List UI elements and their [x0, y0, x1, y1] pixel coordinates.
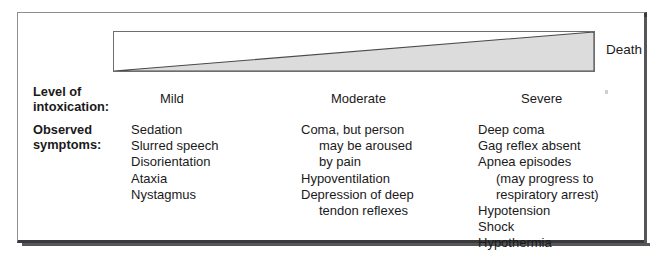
symptom-line: by pain	[301, 154, 414, 170]
symptom-line: Apnea episodes	[478, 154, 599, 170]
frame-shadow-right	[644, 17, 647, 246]
symptom-line: Deep coma	[478, 122, 599, 138]
severity-wedge-box	[113, 31, 595, 72]
symptom-line: Shock	[478, 219, 599, 235]
level-heading-mild: Mild	[160, 91, 184, 106]
symptom-line: Slurred speech	[131, 138, 218, 154]
symptom-list-moderate: Coma, but personmay be arousedby painHyp…	[301, 122, 414, 219]
row-label-level-line-2: intoxication:	[33, 99, 109, 114]
symptom-line: respiratory arrest)	[478, 187, 599, 203]
intoxication-severity-figure: Death Level of intoxication: Observed sy…	[0, 0, 665, 258]
symptom-line: Hypotension	[478, 203, 599, 219]
symptom-line: Hypothermia	[478, 235, 599, 251]
symptom-line: Depression of deep	[301, 187, 414, 203]
severity-wedge-graphic	[114, 32, 594, 71]
symptom-line: Coma, but person	[301, 122, 414, 138]
level-heading-severe: Severe	[521, 91, 562, 106]
scan-artifact-speck	[605, 90, 608, 94]
symptom-line: tendon reflexes	[301, 203, 414, 219]
row-label-symptoms-line-2: symptoms:	[33, 137, 101, 152]
level-heading-moderate: Moderate	[331, 91, 386, 106]
symptom-line: Sedation	[131, 122, 218, 138]
symptom-line: Gag reflex absent	[478, 138, 599, 154]
symptom-line: may be aroused	[301, 138, 414, 154]
symptom-line: Nystagmus	[131, 187, 218, 203]
symptom-list-severe: Deep comaGag reflex absentApnea episodes…	[478, 122, 599, 252]
row-label-level-line-1: Level of	[33, 84, 109, 99]
symptom-line: Hypoventilation	[301, 171, 414, 187]
death-label: Death	[606, 42, 642, 57]
symptom-list-mild: SedationSlurred speechDisorientationAtax…	[131, 122, 218, 203]
row-label-symptoms-line-1: Observed	[33, 122, 101, 137]
symptom-line: (may progress to	[478, 171, 599, 187]
symptom-line: Ataxia	[131, 171, 218, 187]
row-label-observed-symptoms: Observed symptoms:	[33, 122, 101, 152]
row-label-level-of-intoxication: Level of intoxication:	[33, 84, 109, 114]
symptom-line: Disorientation	[131, 154, 218, 170]
